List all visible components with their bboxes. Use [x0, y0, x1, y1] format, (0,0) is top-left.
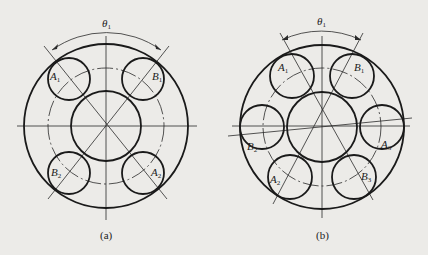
- label-b1: B1: [354, 61, 365, 75]
- caption-a: (a): [100, 229, 113, 242]
- caption-b: (b): [316, 229, 329, 242]
- figure-b: θ1 A1 B1 B2 A3 A2 B3 (b): [228, 15, 412, 242]
- label-a1: A1: [49, 70, 61, 84]
- diagonal-line-1: [44, 46, 167, 199]
- bearing-diagrams: θ1 A1 B1 B2 A2 (a) θ1 A1 B1 B2 A3: [0, 0, 428, 255]
- label-b3: B3: [361, 170, 372, 184]
- label-b2: B2: [51, 166, 62, 180]
- arrow-left: [52, 44, 58, 50]
- figure-a: θ1 A1 B1 B2 A2 (a): [17, 17, 197, 242]
- angle-arc: [52, 33, 161, 50]
- label-b1: B1: [152, 70, 163, 84]
- label-a3: A3: [380, 138, 392, 152]
- diagram-canvas: θ1 A1 B1 B2 A2 (a) θ1 A1 B1 B2 A3: [0, 0, 428, 255]
- label-b2: B2: [247, 140, 258, 154]
- angle-arc: [282, 31, 361, 40]
- tilted-centerline: [228, 118, 412, 136]
- angle-label: θ1: [317, 15, 326, 29]
- label-a1: A1: [277, 61, 289, 75]
- diagonal-line-1: [280, 33, 373, 200]
- label-a2: A2: [269, 173, 281, 187]
- angle-label: θ1: [102, 17, 111, 31]
- label-a2: A2: [150, 166, 162, 180]
- diagonal-line-2: [273, 33, 363, 204]
